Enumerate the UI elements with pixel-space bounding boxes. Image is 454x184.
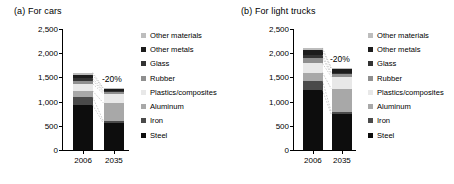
legend-item-other-materials[interactable]: Other materials: [368, 29, 444, 41]
x-tick-label-2035: 2035: [333, 156, 351, 165]
legend-swatch-icon: [368, 118, 373, 123]
legend-swatch-icon: [368, 76, 373, 81]
legend-label: Iron: [377, 116, 390, 125]
connector-line: [93, 97, 104, 121]
segment-connector-lines: [63, 29, 129, 150]
legend-label: Other metals: [377, 45, 420, 54]
legend-label: Glass: [377, 59, 396, 68]
legend-swatch-icon: [368, 33, 373, 38]
x-tick-label-2006: 2006: [304, 156, 322, 165]
legend-swatch-icon: [368, 47, 373, 52]
legend-item-iron[interactable]: Iron: [368, 115, 444, 127]
x-tick: [342, 150, 343, 154]
legend-label: Plastics/composites: [377, 88, 444, 97]
panel-b-plot-area: 05001,0001,5002,0002,50020062035: [293, 29, 356, 151]
x-tick: [114, 150, 115, 154]
legend-label: Steel: [377, 131, 394, 140]
legend-label: Other materials: [377, 31, 429, 40]
legend-label: Steel: [150, 131, 167, 140]
legend-item-iron[interactable]: Iron: [141, 115, 217, 127]
legend-item-aluminum[interactable]: Aluminum: [141, 100, 217, 112]
x-tick-label-2006: 2006: [74, 156, 92, 165]
legend-label: Aluminum: [150, 102, 184, 111]
x-tick: [83, 150, 84, 154]
y-tick-label: 2,000: [38, 49, 58, 58]
connector-line: [322, 73, 331, 89]
legend-swatch-icon: [368, 104, 373, 109]
legend-item-rubber[interactable]: Rubber: [141, 72, 217, 84]
legend-swatch-icon: [368, 90, 373, 95]
legend-item-glass[interactable]: Glass: [368, 58, 444, 70]
legend-item-aluminum[interactable]: Aluminum: [368, 100, 444, 112]
legend-label: Other metals: [150, 45, 193, 54]
y-tick-label: 0: [285, 146, 289, 155]
legend-item-plastics-composites[interactable]: Plastics/composites: [141, 86, 217, 98]
legend-item-other-metals[interactable]: Other metals: [368, 43, 444, 55]
panel-a-legend: Other materialsOther metalsGlassRubberPl…: [141, 29, 217, 141]
x-tick-label-2035: 2035: [105, 156, 123, 165]
legend-item-rubber[interactable]: Rubber: [368, 72, 444, 84]
panel-a-title: (a) For cars: [14, 6, 62, 16]
panel-light-trucks: (b) For light trucks 05001,0001,5002,000…: [227, 0, 454, 184]
legend-swatch-icon: [368, 133, 373, 138]
legend-label: Other materials: [150, 31, 202, 40]
y-tick-label: 500: [45, 121, 58, 130]
legend-label: Aluminum: [377, 102, 411, 111]
y-tick-label: 1,000: [38, 97, 58, 106]
panel-a-plot-area: 05001,0001,5002,0002,50020062035: [62, 29, 129, 151]
y-tick-label: 1,000: [269, 97, 289, 106]
legend-label: Rubber: [150, 74, 175, 83]
y-tick-label: 2,500: [38, 25, 58, 34]
panel-b-legend: Other materialsOther metalsGlassRubberPl…: [368, 29, 444, 141]
connector-line: [322, 63, 331, 76]
legend-swatch-icon: [368, 61, 373, 66]
legend-item-glass[interactable]: Glass: [141, 58, 217, 70]
legend-item-steel[interactable]: Steel: [141, 129, 217, 141]
panel-cars: (a) For cars 05001,0001,5002,0002,500200…: [0, 0, 227, 184]
connector-line: [93, 105, 104, 123]
legend-label: Rubber: [377, 74, 402, 83]
y-tick-label: 1,500: [38, 73, 58, 82]
legend-label: Plastics/composites: [150, 88, 217, 97]
legend-item-other-metals[interactable]: Other metals: [141, 43, 217, 55]
connector-line: [322, 81, 331, 112]
x-tick: [313, 150, 314, 154]
legend-label: Iron: [150, 116, 163, 125]
y-tick: [290, 150, 294, 151]
connector-line: [322, 90, 331, 114]
legend-label: Glass: [150, 59, 169, 68]
y-tick-label: 2,000: [269, 49, 289, 58]
connector-line: [93, 84, 104, 94]
segment-connector-lines: [294, 29, 356, 150]
panel-b-reduction-annotation: -20%: [330, 54, 350, 64]
y-tick: [59, 150, 63, 151]
panel-a-reduction-annotation: -20%: [102, 74, 122, 84]
legend-item-steel[interactable]: Steel: [368, 129, 444, 141]
legend-item-plastics-composites[interactable]: Plastics/composites: [368, 86, 444, 98]
y-tick-label: 0: [54, 146, 58, 155]
panel-b-title: (b) For light trucks: [241, 6, 316, 16]
panel-b-y-axis-label: [133, 22, 145, 142]
y-tick-label: 1,500: [269, 73, 289, 82]
legend-item-other-materials[interactable]: Other materials: [141, 29, 217, 41]
figure-mass-breakdown: (a) For cars 05001,0001,5002,0002,500200…: [0, 0, 454, 184]
y-tick-label: 500: [276, 121, 289, 130]
y-tick-label: 2,500: [269, 25, 289, 34]
